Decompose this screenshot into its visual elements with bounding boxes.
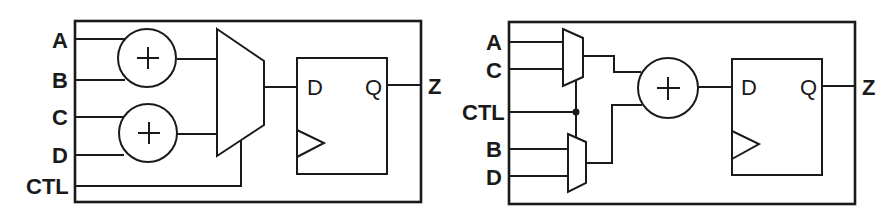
right-circuit: A C CTL B D D Q xyxy=(462,22,875,204)
input-label-d: D xyxy=(52,143,68,168)
junction-dot xyxy=(573,109,580,116)
multiplexer xyxy=(217,29,264,156)
multiplexer-bd xyxy=(568,134,586,192)
d-flip-flop: D Q xyxy=(732,59,822,175)
adder-ab xyxy=(118,29,176,87)
adder xyxy=(638,58,698,118)
ff-q-pin-label: Q xyxy=(365,75,382,100)
d-flip-flop: D Q xyxy=(297,58,387,174)
wire-mux1-out xyxy=(583,56,641,72)
ff-d-pin-label: D xyxy=(307,75,323,100)
input-label-a: A xyxy=(52,28,68,53)
input-label-c: C xyxy=(486,58,502,83)
wire-mux2-out xyxy=(586,105,642,163)
adder-cd xyxy=(119,104,177,162)
output-label-z: Z xyxy=(428,74,441,99)
input-label-b: B xyxy=(486,137,502,162)
input-label-a: A xyxy=(486,30,502,55)
circuit-diagrams: A B C D CTL D Q xyxy=(0,0,892,217)
left-circuit: A B C D CTL D Q xyxy=(26,21,441,202)
multiplexer-ac xyxy=(563,29,583,86)
input-label-ctl: CTL xyxy=(26,174,69,199)
input-label-c: C xyxy=(52,105,68,130)
ff-q-pin-label: Q xyxy=(800,75,817,100)
input-label-b: B xyxy=(52,68,68,93)
output-label-z: Z xyxy=(862,75,875,100)
input-label-ctl: CTL xyxy=(462,100,505,125)
ff-d-pin-label: D xyxy=(741,75,757,100)
input-label-d: D xyxy=(486,165,502,190)
